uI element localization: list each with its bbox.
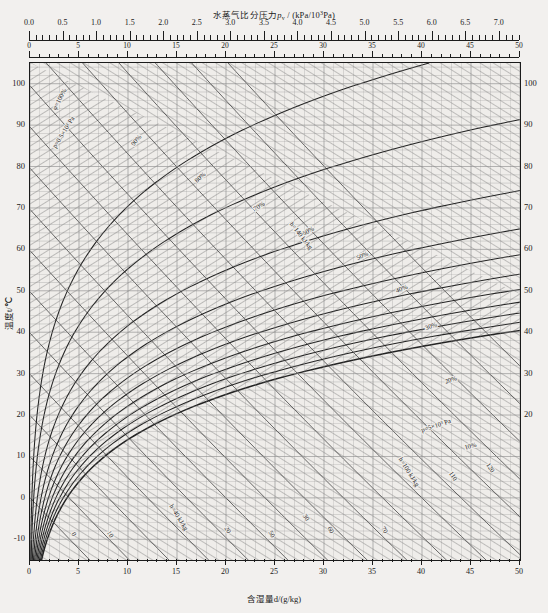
x-axis-tick	[372, 559, 373, 565]
top-axis-major-tick	[297, 31, 298, 40]
top-axis-major-tick	[96, 31, 97, 40]
top-axis-minor-tick	[338, 35, 339, 40]
top-moisture-minor-tick	[343, 54, 344, 57]
x-axis-minor-tick	[39, 559, 40, 562]
top-axis-minor-tick	[479, 35, 480, 40]
top-moisture-minor-tick	[117, 54, 118, 57]
top-moisture-tick	[127, 51, 128, 57]
y-axis-tick-label: 0	[0, 492, 25, 502]
x-axis-minor-tick	[49, 559, 50, 562]
top-axis-minor-tick	[378, 35, 379, 40]
top-axis-tick-label: 3.0	[225, 18, 235, 27]
top-axis-minor-tick	[177, 35, 178, 40]
top-axis-tick-label: 7.0	[494, 18, 504, 27]
top-axis-minor-tick	[110, 35, 111, 40]
top-moisture-minor-tick	[294, 54, 295, 57]
x-axis-minor-tick	[137, 559, 138, 562]
x-axis-tick-label: 30	[319, 567, 327, 576]
x-axis-minor-tick	[215, 559, 216, 562]
x-axis-minor-tick	[450, 559, 451, 562]
top-moisture-tick	[225, 51, 226, 57]
top-axis-minor-tick	[123, 35, 124, 40]
top-axis-minor-tick	[318, 35, 319, 40]
x-axis-minor-tick	[333, 559, 334, 562]
top-axis-minor-tick	[204, 35, 205, 40]
y-axis-right-tick-label: 100	[524, 78, 537, 88]
top-axis-minor-tick	[190, 35, 191, 40]
top-moisture-tick-label: 30	[319, 41, 327, 50]
x-axis-minor-tick	[205, 559, 206, 562]
x-axis-tick-label: 35	[368, 567, 376, 576]
top-moisture-tick-label: 25	[270, 41, 278, 50]
x-axis-minor-tick	[499, 559, 500, 562]
x-axis-minor-tick	[431, 559, 432, 562]
top-moisture-tick	[274, 51, 275, 57]
y-axis-tick-label: 60	[0, 243, 25, 253]
top-axis-minor-tick	[291, 35, 292, 40]
x-axis-minor-tick	[362, 559, 363, 562]
top-axis-minor-tick	[284, 35, 285, 40]
x-axis-tick-label: 10	[123, 567, 131, 576]
top-moisture-tick-label: 15	[172, 41, 180, 50]
top-moisture-minor-tick	[441, 54, 442, 57]
top-moisture-minor-tick	[196, 54, 197, 57]
top-axis-minor-tick	[512, 35, 513, 40]
top-moisture-minor-tick	[313, 54, 314, 57]
x-axis-minor-tick	[254, 559, 255, 562]
top-axis-minor-tick	[311, 35, 312, 40]
x-axis-minor-tick	[460, 559, 461, 562]
x-axis-minor-tick	[235, 559, 236, 562]
top-moisture-minor-tick	[392, 54, 393, 57]
top-moisture-minor-tick	[166, 54, 167, 57]
top-moisture-minor-tick	[352, 54, 353, 57]
top-moisture-minor-tick	[382, 54, 383, 57]
top-axis-minor-tick	[351, 35, 352, 40]
top-moisture-minor-tick	[284, 54, 285, 57]
x-axis-minor-tick	[294, 559, 295, 562]
top-axis-tick-label: 6.0	[427, 18, 437, 27]
y-axis-right-tick-label: 60	[524, 243, 533, 253]
top-moisture-minor-tick	[411, 54, 412, 57]
x-axis-minor-tick	[98, 559, 99, 562]
top-moisture-tick	[372, 51, 373, 57]
top-axis-major-tick	[465, 31, 466, 40]
top-axis-minor-tick	[56, 35, 57, 40]
top-axis-minor-tick	[358, 35, 359, 40]
top-axis-tick-label: 0.0	[24, 18, 34, 27]
top-moisture-minor-tick	[205, 54, 206, 57]
top-axis-major-tick	[197, 31, 198, 40]
top-axis-tick-label: 5.0	[360, 18, 370, 27]
top-axis-major-tick	[63, 31, 64, 40]
top-axis-minor-tick	[89, 35, 90, 40]
top-axis-minor-tick	[83, 35, 84, 40]
top-axis-major-tick	[29, 31, 30, 40]
x-axis-minor-tick	[303, 559, 304, 562]
plot-area[interactable]: φ=100%90%80%70%60%50%40%30%20%10%h=40 kJ…	[29, 62, 521, 561]
top-axis-minor-tick	[76, 35, 77, 40]
x-axis-tick-label: 25	[270, 567, 278, 576]
x-axis-minor-tick	[509, 559, 510, 562]
top-axis-major-tick	[499, 31, 500, 40]
top-axis-minor-tick	[103, 35, 104, 40]
top-moisture-minor-tick	[49, 54, 50, 57]
top-moisture-tick-label: 45	[466, 41, 474, 50]
y-axis-tick-label: 100	[0, 78, 25, 88]
top-axis-minor-tick	[183, 35, 184, 40]
y-axis-tick-label: 70	[0, 202, 25, 212]
top-moisture-minor-tick	[147, 54, 148, 57]
top-moisture-minor-tick	[499, 54, 500, 57]
top-axis-minor-tick	[519, 35, 520, 40]
psychrometric-chart: 水蒸气比分压力pv / (kPa/103Pa) 温度t/℃ 含湿量d/(g/kg…	[0, 0, 548, 613]
top-axis-major-tick	[264, 31, 265, 40]
x-axis-minor-tick	[58, 559, 59, 562]
top-moisture-tick-label: 0	[27, 41, 31, 50]
top-axis-minor-tick	[472, 35, 473, 40]
x-axis-label: 含湿量d/(g/kg)	[0, 592, 548, 604]
top-moisture-tick-label: 20	[221, 41, 229, 50]
top-axis-minor-tick	[324, 35, 325, 40]
x-axis-minor-tick	[411, 559, 412, 562]
x-axis-minor-tick	[196, 559, 197, 562]
top-axis-minor-tick	[425, 35, 426, 40]
y-axis-tick-label: 80	[0, 161, 25, 171]
top-moisture-minor-tick	[137, 54, 138, 57]
